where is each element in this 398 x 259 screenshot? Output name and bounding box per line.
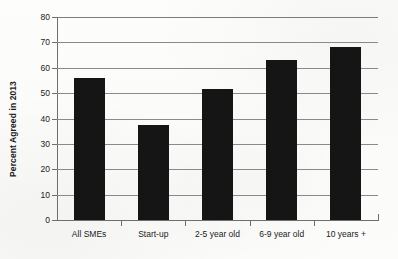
y-tick-mark-60: [52, 68, 57, 69]
x-tick-mark: [121, 221, 122, 226]
y-tick-label-50: 50: [28, 88, 50, 98]
plot-area: [57, 17, 378, 220]
y-axis-title-label: Percent Agreed in 2013: [8, 81, 18, 177]
bar: [74, 78, 105, 220]
y-tick-label-80: 80: [28, 12, 50, 22]
bar: [330, 47, 361, 220]
y-tick-label-10: 10: [28, 190, 50, 200]
y-tick-label-0: 0: [28, 215, 50, 225]
plot-right-edge: [378, 214, 379, 221]
y-tick-label-70: 70: [28, 37, 50, 47]
y-tick-label-20: 20: [28, 164, 50, 174]
bar: [266, 60, 297, 220]
x-tick-mark: [250, 221, 251, 226]
gridline-80: [57, 17, 378, 18]
x-axis-category-label: 10 years +: [326, 229, 366, 239]
gridline-0: [57, 220, 378, 221]
y-tick-mark-50: [52, 93, 57, 94]
y-tick-mark-20: [52, 169, 57, 170]
x-axis-category-label: All SMEs: [72, 229, 106, 239]
x-axis-category-label: Start-up: [138, 229, 168, 239]
y-tick-mark-30: [52, 144, 57, 145]
y-tick-mark-10: [52, 195, 57, 196]
x-axis-category-label: 6-9 year old: [259, 229, 304, 239]
y-tick-label-30: 30: [28, 139, 50, 149]
bar: [202, 89, 233, 220]
y-tick-mark-70: [52, 42, 57, 43]
bar-chart: Percent Agreed in 2013 80706050403020100…: [0, 0, 398, 259]
y-axis-tick-labels: 80706050403020100: [26, 0, 50, 259]
gridline-70: [57, 42, 378, 43]
y-tick-mark-0: [52, 220, 57, 221]
bar: [138, 125, 169, 220]
x-tick-mark: [185, 221, 186, 226]
y-tick-mark-40: [52, 119, 57, 120]
y-tick-label-40: 40: [28, 114, 50, 124]
x-axis-category-label: 2-5 year old: [195, 229, 240, 239]
x-tick-mark: [314, 221, 315, 226]
y-tick-label-60: 60: [28, 63, 50, 73]
y-tick-mark-80: [52, 17, 57, 18]
y-axis-title: Percent Agreed in 2013: [4, 54, 22, 204]
